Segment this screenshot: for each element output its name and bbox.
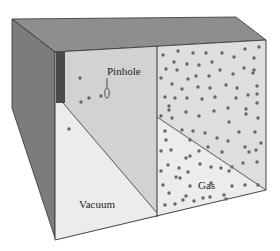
molecule-dot (169, 148, 172, 151)
molecule-dot (230, 165, 233, 168)
molecule-dot (251, 71, 254, 74)
molecule-dot (159, 149, 162, 152)
molecule-dot (237, 130, 240, 133)
molecule-dot (207, 74, 210, 77)
molecule-dot (259, 141, 262, 144)
molecule-dot (159, 169, 162, 172)
molecule-dot (255, 84, 258, 87)
vacuum-label: Vacuum (79, 198, 115, 210)
molecule-dot (246, 93, 249, 96)
molecule-dot (247, 150, 250, 153)
molecule-dot (184, 156, 187, 159)
gas-label: Gas (198, 179, 215, 191)
molecule-dot (230, 184, 233, 187)
molecule-dot (174, 175, 177, 178)
molecule-dot (79, 100, 82, 103)
molecule-dot (180, 128, 183, 131)
molecule-dot (185, 62, 188, 65)
molecule-dot (166, 163, 169, 166)
molecule-dot (241, 161, 244, 164)
molecule-dot (159, 76, 162, 79)
molecule-dot (163, 203, 166, 206)
molecule-dot (222, 193, 225, 196)
molecule-dot (234, 96, 237, 99)
molecule-dot (255, 92, 258, 95)
molecule-dot (186, 77, 189, 80)
molecule-dot (191, 51, 194, 54)
molecule-dot (194, 74, 197, 77)
molecule-dot (167, 108, 170, 111)
molecule-dot (170, 116, 173, 119)
molecule-dot (197, 114, 200, 117)
molecule-dot (198, 162, 201, 165)
back-wall-strip (56, 52, 65, 103)
molecule-dot (204, 51, 207, 54)
molecule-dot (242, 66, 245, 69)
molecule-dot (186, 170, 189, 173)
box-left-face (12, 19, 55, 238)
molecule-dot (257, 45, 260, 48)
molecule-dot (176, 49, 179, 52)
molecule-dot (220, 150, 223, 153)
molecule-dot (215, 136, 218, 139)
molecule-dot (164, 67, 167, 70)
molecule-dot (188, 138, 191, 141)
molecule-dot (180, 87, 183, 90)
molecule-dot (177, 166, 180, 169)
molecule-dot (191, 129, 194, 132)
molecule-dot (232, 55, 235, 58)
molecule-dot (167, 104, 170, 107)
molecule-dot (192, 199, 195, 202)
molecule-dot (67, 127, 70, 130)
molecule-dot (197, 149, 200, 152)
molecule-dot (224, 83, 227, 86)
molecule-dot (244, 107, 247, 110)
molecule-dot (219, 166, 222, 169)
molecule-dot (253, 130, 256, 133)
molecule-dot (99, 94, 102, 97)
molecule-dot (161, 183, 164, 186)
molecule-dot (178, 176, 181, 179)
molecule-dot (243, 47, 246, 50)
molecule-dot (213, 95, 216, 98)
molecule-dot (185, 96, 188, 99)
molecule-dot (244, 112, 247, 115)
molecule-dot (163, 95, 166, 98)
molecule-dot (210, 60, 213, 63)
molecule-dot (226, 139, 229, 142)
molecule-dot (200, 97, 203, 100)
molecule-dot (170, 82, 173, 85)
molecule-dot (167, 191, 170, 194)
molecule-dot (252, 56, 255, 59)
molecule-dot (163, 129, 166, 132)
molecule-dot (188, 184, 191, 187)
molecule-dot (252, 68, 255, 71)
molecule-dot (231, 72, 234, 75)
molecule-dot (255, 101, 258, 104)
molecule-dot (196, 85, 199, 88)
molecule-dot (212, 109, 215, 112)
molecule-dot (218, 68, 221, 71)
molecule-dot (184, 194, 187, 197)
molecule-dot (173, 202, 176, 205)
molecule-dot (227, 120, 230, 123)
molecule-dot (181, 198, 184, 201)
molecule-dot (243, 145, 246, 148)
molecule-dot (224, 197, 227, 200)
molecule-dot (220, 51, 223, 54)
molecule-dot (256, 183, 259, 186)
molecule-dot (164, 138, 167, 141)
molecule-dot (243, 183, 246, 186)
molecule-dot (173, 96, 176, 99)
molecule-dot (256, 116, 259, 119)
molecule-dot (197, 63, 200, 66)
molecule-dot (188, 154, 191, 157)
molecule-dot (175, 68, 178, 71)
molecule-dot (227, 169, 230, 172)
molecule-dot (184, 110, 187, 113)
molecule-dot (235, 86, 238, 89)
molecule-dot (161, 53, 164, 56)
molecule-dot (206, 145, 209, 148)
molecule-dot (201, 196, 204, 199)
molecule-dot (87, 96, 90, 99)
